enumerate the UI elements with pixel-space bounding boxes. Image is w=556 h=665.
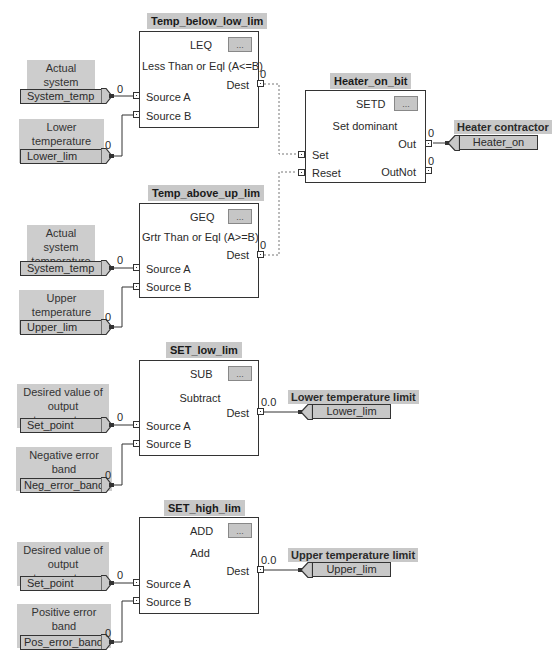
- block-opcode: SETD: [356, 98, 385, 110]
- block-title: Temp_below_low_lim: [147, 13, 267, 29]
- port-label-reset: Reset: [312, 167, 341, 179]
- input-value: 0: [105, 311, 111, 323]
- block-properties-button[interactable]: ...: [228, 366, 252, 381]
- input-tag-pos-error-band[interactable]: Pos_error_band: [20, 635, 102, 650]
- output-connector-icon: [297, 562, 313, 578]
- block-description: Less Than or Eql (A<=B): [142, 60, 258, 72]
- input-connector-icon: [101, 260, 115, 276]
- port-label-out: Out: [398, 138, 416, 150]
- block-description: Set dominant: [306, 120, 424, 132]
- input-pin-source-a[interactable]: [133, 579, 140, 586]
- geq-block[interactable]: GEQ ... Grtr Than or Eql (A>=B) Dest Sou…: [139, 203, 259, 298]
- block-title: SET_low_lim: [166, 342, 242, 358]
- output-value: 0.0: [261, 554, 276, 566]
- input-pin-source-a[interactable]: [133, 264, 140, 271]
- output-tag-upper-lim[interactable]: Upper_lim: [312, 562, 391, 577]
- output-tag-lower-lim[interactable]: Lower_lim: [312, 404, 391, 419]
- port-label-dest: Dest: [226, 407, 249, 419]
- block-title: Heater_on_bit: [330, 73, 411, 89]
- block-opcode: GEQ: [190, 211, 214, 223]
- block-description: Grtr Than or Eql (A>=B): [142, 231, 258, 243]
- port-label-dest: Dest: [226, 79, 249, 91]
- output-value: 0: [260, 68, 266, 80]
- block-properties-button[interactable]: ...: [394, 96, 418, 111]
- input-value: 0: [117, 83, 123, 95]
- input-tag-upper-lim[interactable]: Upper_lim: [20, 320, 102, 335]
- input-pin-source-a[interactable]: [133, 92, 140, 99]
- input-pin-source-b[interactable]: [133, 440, 140, 447]
- block-title: Temp_above_up_lim: [148, 185, 264, 201]
- output-connector-icon: [444, 135, 460, 151]
- port-label-source-b: Source B: [146, 438, 191, 450]
- input-pin-set[interactable]: [298, 151, 305, 158]
- port-label-source-a: Source A: [146, 91, 191, 103]
- input-tag-set-point[interactable]: Set_point: [20, 576, 102, 591]
- port-label-dest: Dest: [226, 249, 249, 261]
- input-tag-lower-lim[interactable]: Lower_lim: [20, 149, 102, 164]
- input-pin-source-b[interactable]: [133, 597, 140, 604]
- setd-block[interactable]: SETD ... Set dominant Out Set OutNot Res…: [305, 90, 426, 183]
- block-properties-button[interactable]: ...: [228, 37, 252, 52]
- output-connector-icon: [297, 404, 313, 420]
- port-label-source-a: Source A: [146, 263, 191, 275]
- output-value-out: 0: [428, 127, 434, 139]
- block-opcode: ADD: [190, 525, 213, 537]
- input-value: 0: [117, 254, 123, 266]
- input-pin-source-b[interactable]: [133, 111, 140, 118]
- block-description: Subtract: [142, 392, 258, 404]
- input-tag-neg-error-band[interactable]: Neg_error_band: [20, 478, 102, 493]
- input-value: 0: [117, 411, 123, 423]
- block-opcode: SUB: [190, 368, 213, 380]
- output-pin-outnot[interactable]: [425, 167, 432, 174]
- output-tag-label: Lower temperature limit: [288, 390, 419, 404]
- input-pin-source-a[interactable]: [133, 421, 140, 428]
- output-pin-out[interactable]: [425, 140, 432, 147]
- block-properties-button[interactable]: ...: [228, 209, 252, 224]
- port-label-outnot: OutNot: [381, 166, 416, 178]
- input-connector-icon: [101, 417, 115, 433]
- output-pin-dest[interactable]: [257, 566, 264, 573]
- port-label-source-a: Source A: [146, 420, 191, 432]
- add-block[interactable]: ADD ... Add Dest Source A Source B: [139, 517, 259, 614]
- port-label-source-b: Source B: [146, 596, 191, 608]
- input-connector-icon: [101, 88, 115, 104]
- input-tag-set-point[interactable]: Set_point: [20, 418, 102, 433]
- input-connector-icon: [101, 575, 115, 591]
- output-value: 0: [260, 239, 266, 251]
- sub-block[interactable]: SUB ... Subtract Dest Source A Source B: [139, 360, 259, 456]
- port-label-source-b: Source B: [146, 110, 191, 122]
- block-description: Add: [142, 547, 258, 559]
- output-pin-dest[interactable]: [257, 80, 264, 87]
- input-tag-system-temp[interactable]: System_temp: [20, 261, 102, 276]
- output-value: 0.0: [261, 396, 276, 408]
- input-pin-source-b[interactable]: [133, 283, 140, 290]
- output-tag-label: Upper temperature limit: [288, 548, 418, 562]
- block-title: SET_high_lim: [164, 500, 245, 516]
- block-opcode: LEQ: [190, 39, 212, 51]
- port-label-dest: Dest: [226, 565, 249, 577]
- port-label-source-a: Source A: [146, 578, 191, 590]
- output-pin-dest[interactable]: [257, 408, 264, 415]
- input-value: 0: [105, 139, 111, 151]
- block-properties-button[interactable]: ...: [228, 523, 252, 538]
- input-pin-reset[interactable]: [298, 169, 305, 176]
- input-value: 0: [117, 569, 123, 581]
- input-value: 0: [105, 469, 111, 481]
- output-pin-dest[interactable]: [257, 251, 264, 258]
- port-label-source-b: Source B: [146, 281, 191, 293]
- output-tag-heater-on[interactable]: Heater_on: [459, 135, 538, 150]
- output-tag-label: Heater contractor: [454, 120, 552, 134]
- input-value: 0: [105, 627, 111, 639]
- output-value-outnot: 0: [428, 155, 434, 167]
- port-label-set: Set: [312, 149, 329, 161]
- leq-block[interactable]: LEQ ... Less Than or Eql (A<=B) Dest Sou…: [139, 31, 259, 128]
- input-tag-system-temp[interactable]: System_temp: [20, 89, 102, 104]
